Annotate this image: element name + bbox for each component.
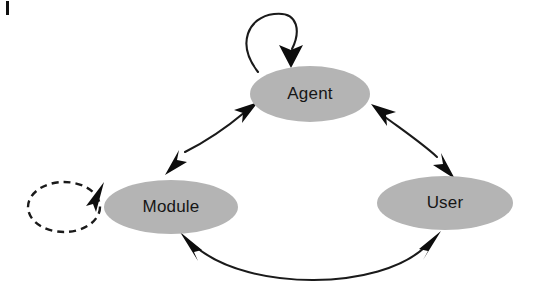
diagram-canvas: Agent Module User [0, 0, 539, 306]
node-user-label: User [427, 193, 464, 212]
edge-agent-user [371, 104, 455, 179]
edge-module-self-loop [28, 182, 104, 232]
agent-user-path [385, 117, 437, 157]
node-agent[interactable]: Agent [250, 66, 370, 122]
module-user-path [196, 247, 425, 280]
page-edge-mark [6, 1, 9, 15]
module-self-loop-path [28, 182, 100, 232]
agent-module-path [185, 112, 245, 152]
module-self-loop-arrowhead [86, 182, 104, 212]
edge-agent-self-loop [247, 14, 303, 72]
agent-module-arrowhead-module [165, 150, 187, 175]
node-user[interactable]: User [377, 176, 513, 230]
module-user-arrowhead-module [180, 232, 202, 261]
diagram-svg: Agent Module User [0, 0, 539, 306]
edge-module-user [180, 231, 441, 280]
module-user-arrowhead-user [419, 231, 441, 260]
node-module-label: Module [143, 197, 200, 216]
agent-self-loop-arrowhead [279, 45, 303, 68]
node-module[interactable]: Module [104, 180, 238, 234]
node-agent-label: Agent [287, 84, 333, 103]
agent-module-arrowhead-agent [234, 102, 258, 123]
edge-agent-module [165, 102, 258, 175]
